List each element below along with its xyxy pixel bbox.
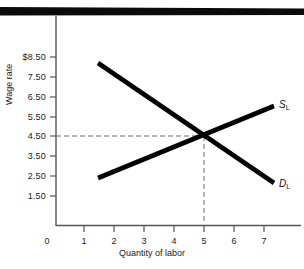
y-axis-ticks xyxy=(50,57,56,196)
x-tick-label-1: 1 xyxy=(81,236,86,246)
demand-curve-label-subscript: L xyxy=(286,183,290,190)
x-tick-label-7: 7 xyxy=(261,236,266,246)
y-tick-label-8-50: $8.50 xyxy=(8,52,46,62)
supply-curve-label-text: S xyxy=(279,99,286,110)
y-tick-label-4-50: 4.50 xyxy=(8,131,46,141)
y-tick-label-3-50: 3.50 xyxy=(8,151,46,161)
x-axis-ticks xyxy=(84,226,264,232)
supply-curve-label: SL xyxy=(279,99,290,110)
x-tick-label-2: 2 xyxy=(111,236,116,246)
x-tick-label-3: 3 xyxy=(141,236,146,246)
x-tick-label-5: 5 xyxy=(201,236,206,246)
y-tick-label-2-50: 2.50 xyxy=(8,171,46,181)
y-tick-label-1-50: 1.50 xyxy=(8,191,46,201)
supply-curve-label-subscript: L xyxy=(286,104,290,111)
figure-container: $8.50 7.50 6.50 5.50 4.50 3.50 2.50 1.50… xyxy=(0,0,304,269)
x-axis-title: Quantity of labor xyxy=(0,248,304,258)
demand-curve-label: DL xyxy=(279,178,290,189)
x-tick-label-0: 0 xyxy=(44,236,49,246)
x-tick-label-6: 6 xyxy=(231,236,236,246)
y-axis-title: Wage rate xyxy=(4,64,14,105)
y-tick-label-5-50: 5.50 xyxy=(8,112,46,122)
x-tick-label-4: 4 xyxy=(171,236,176,246)
